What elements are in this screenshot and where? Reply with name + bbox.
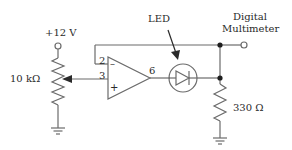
- led-icon: [169, 64, 220, 92]
- meter-terminal-icon: [241, 42, 247, 48]
- potentiometer-icon: [52, 58, 64, 105]
- pin-6-label: 6: [149, 66, 155, 76]
- led-label: LED: [148, 14, 170, 24]
- led-pointer-arrow-icon: [171, 50, 180, 60]
- meter-label-line1: Digital: [233, 12, 267, 22]
- junction-dot-top: [217, 42, 222, 47]
- junction-dot-bottom: [217, 75, 222, 80]
- inverting-input-symbol: –: [110, 59, 115, 69]
- load-resistor-icon: [214, 84, 226, 121]
- pin-3-label: 3: [99, 71, 105, 81]
- potentiometer-label: 10 kΩ: [10, 74, 40, 84]
- supply-terminal-icon: [55, 43, 61, 49]
- pin-2-label: 2: [99, 56, 105, 66]
- supply-label: +12 V: [45, 28, 77, 38]
- meter-label-line2: Multimeter: [222, 24, 279, 34]
- ground-icon-left: [51, 128, 65, 134]
- circuit-diagram: +12 V 10 kΩ 2 3 – + 6 LED Digital Multim…: [0, 0, 292, 150]
- ground-icon-right: [213, 138, 227, 144]
- load-resistor-label: 330 Ω: [233, 103, 264, 113]
- non-inverting-input-symbol: +: [110, 83, 118, 93]
